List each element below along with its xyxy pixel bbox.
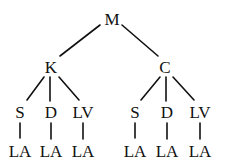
node-s-left: S	[15, 103, 24, 122]
leaf-la-2: LA	[40, 142, 63, 161]
edge-m-c	[122, 25, 158, 56]
node-root-m: M	[104, 10, 119, 29]
edge-k-lv	[59, 77, 79, 100]
leaf-la-3: LA	[72, 142, 95, 161]
leaf-la-4: LA	[124, 142, 147, 161]
node-lv-right: LV	[189, 103, 211, 122]
leaf-la-5: LA	[156, 142, 179, 161]
edge-k-s	[27, 77, 44, 100]
tree-diagram: M K C S D LV S D LV LA LA LA LA LA LA	[0, 0, 225, 164]
node-c: C	[159, 58, 170, 77]
node-d-left: D	[45, 103, 57, 122]
node-lv-left: LV	[72, 103, 94, 122]
node-k: K	[45, 58, 58, 77]
edge-c-s	[141, 77, 160, 100]
edge-c-lv	[173, 77, 194, 100]
leaf-la-6: LA	[189, 142, 212, 161]
leaf-la-1: LA	[9, 142, 32, 161]
edge-m-k	[60, 25, 100, 56]
node-d-right: D	[161, 103, 173, 122]
node-s-right: S	[130, 103, 139, 122]
